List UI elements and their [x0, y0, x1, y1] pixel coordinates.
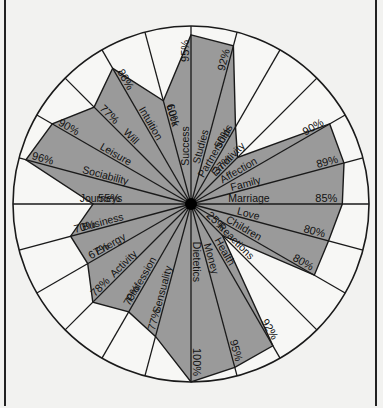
center-dot: [185, 198, 197, 210]
value-label: 85%: [315, 192, 337, 204]
value-label: 95%: [179, 40, 191, 62]
value-label: 100%: [191, 348, 203, 376]
radar-chart: Success95%Studies92%Partnerships50%Emoti…: [0, 0, 383, 408]
category-label: Marriage: [228, 192, 270, 204]
category-label: Success: [179, 126, 191, 166]
value-label: 55%: [98, 192, 120, 204]
category-label: Dietetics: [191, 242, 203, 282]
